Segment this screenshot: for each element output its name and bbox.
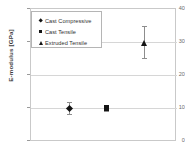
triangle-marker-icon [36,41,45,45]
legend-item-extruded-tensile: Extruded Tensile [36,37,101,48]
y-axis-title: E-modulus [GPa] [7,14,14,98]
square-marker-icon [36,30,45,34]
legend-label: Cast Tensile [45,29,76,35]
triangle-marker [141,40,147,46]
legend-label: Extruded Tensile [45,40,87,46]
errorbar-cap-upper [67,102,72,103]
datapoint-extruded-tensile [144,9,145,142]
legend-label: Cast Compressive [45,18,92,24]
errorbar-cap-upper [142,26,147,27]
square-marker [104,105,110,111]
legend-item-cast-tensile: Cast Tensile [36,26,101,37]
errorbar-cap-lower [67,114,72,115]
errorbar-cap-lower [104,111,109,112]
errorbar-cap-lower [142,58,147,59]
diamond-marker [66,104,73,111]
legend: Cast Compressive Cast Tensile Extruded T… [31,11,102,48]
datapoint-cast-tensile [106,9,107,142]
legend-item-cast-compressive: Cast Compressive [36,15,101,26]
gridline-20 [31,75,177,76]
chart-figure: E-modulus [GPa] 40 30 20 10 0 [0,0,185,147]
diamond-marker-icon [36,19,45,22]
